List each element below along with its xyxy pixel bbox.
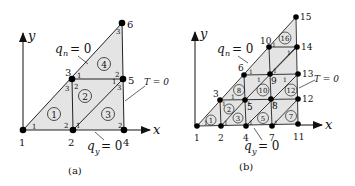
svg-text:1: 1 <box>224 119 228 126</box>
svg-text:3: 3 <box>117 84 121 92</box>
panel-a: y x 1 2 3 4 1 2 3 2 1 2 1 <box>19 19 169 176</box>
bc-qn-b: q n = 0 <box>217 42 254 63</box>
svg-text:n: n <box>63 49 68 58</box>
svg-text:1: 1 <box>283 76 287 83</box>
svg-text:= 0: = 0 <box>258 139 280 153</box>
svg-text:1: 1 <box>249 119 253 126</box>
svg-text:5: 5 <box>128 75 134 86</box>
svg-text:6: 6 <box>238 63 244 73</box>
svg-text:2: 2 <box>218 133 224 143</box>
svg-text:11: 11 <box>293 132 304 142</box>
svg-text:2: 2 <box>64 122 68 130</box>
svg-text:13: 13 <box>302 69 314 79</box>
svg-text:3: 3 <box>105 110 111 120</box>
svg-text:4: 4 <box>101 60 107 70</box>
svg-text:3: 3 <box>116 28 120 36</box>
svg-text:T = 0: T = 0 <box>144 77 169 87</box>
svg-text:3: 3 <box>65 85 69 93</box>
svg-text:1: 1 <box>287 49 291 56</box>
x-axis-label-b: x <box>325 117 333 132</box>
y-axis-label-b: y <box>199 26 208 41</box>
svg-text:5: 5 <box>247 102 253 112</box>
panel-b: y x 1 2 3 5 7 8 10 12 <box>194 12 339 172</box>
svg-text:1: 1 <box>273 67 277 74</box>
svg-text:12: 12 <box>302 94 313 104</box>
svg-text:1: 1 <box>32 123 36 131</box>
x-axis-label-a: x <box>153 122 161 137</box>
svg-text:4: 4 <box>123 137 129 148</box>
y-axis-label-a: y <box>27 28 36 43</box>
svg-text:1: 1 <box>77 72 81 80</box>
svg-text:= 0: = 0 <box>101 139 123 153</box>
svg-text:2: 2 <box>227 106 231 114</box>
caption-b: (b) <box>239 161 253 172</box>
svg-text:8: 8 <box>237 87 241 95</box>
svg-text:10: 10 <box>259 87 268 95</box>
svg-text:2: 2 <box>74 83 78 91</box>
svg-text:y: y <box>94 147 100 156</box>
svg-text:1: 1 <box>19 137 25 148</box>
svg-text:16: 16 <box>281 35 290 43</box>
svg-text:1: 1 <box>249 68 253 75</box>
svg-text:1: 1 <box>209 117 213 125</box>
svg-text:5: 5 <box>261 115 265 123</box>
svg-text:1: 1 <box>257 76 261 83</box>
svg-text:1: 1 <box>112 78 116 86</box>
svg-text:= 0: = 0 <box>232 42 254 56</box>
svg-text:2: 2 <box>68 137 74 148</box>
svg-text:1: 1 <box>51 110 57 120</box>
svg-text:10: 10 <box>260 36 272 46</box>
svg-text:2: 2 <box>82 92 88 102</box>
svg-text:12: 12 <box>287 87 296 95</box>
svg-text:y: y <box>251 147 257 156</box>
bc-qn-a: q n = 0 <box>55 42 92 64</box>
svg-text:14: 14 <box>301 42 313 52</box>
svg-text:8: 8 <box>272 101 278 111</box>
svg-text:15: 15 <box>300 12 312 22</box>
svg-text:= 0: = 0 <box>70 42 92 56</box>
svg-text:1: 1 <box>194 133 200 143</box>
caption-a: (a) <box>68 165 82 176</box>
fem-mesh-diagram: y x 1 2 3 4 1 2 3 2 1 2 1 <box>0 0 355 186</box>
bc-qy-a: q y = 0 <box>87 132 123 156</box>
svg-text:9: 9 <box>271 76 277 86</box>
svg-text:2: 2 <box>115 71 119 79</box>
svg-text:3: 3 <box>213 89 219 99</box>
svg-text:7: 7 <box>289 113 293 121</box>
svg-text:1: 1 <box>76 122 80 130</box>
svg-text:q: q <box>55 42 63 56</box>
svg-text:q: q <box>217 42 225 56</box>
svg-text:n: n <box>225 49 230 58</box>
svg-text:3: 3 <box>236 115 240 123</box>
svg-text:3: 3 <box>65 67 71 78</box>
svg-text:1: 1 <box>204 119 208 126</box>
svg-text:q: q <box>87 139 95 153</box>
svg-text:q: q <box>244 139 252 153</box>
svg-text:1: 1 <box>272 41 276 48</box>
svg-text:1: 1 <box>231 93 235 100</box>
svg-text:T = 0: T = 0 <box>314 74 339 84</box>
svg-text:6: 6 <box>127 19 133 30</box>
